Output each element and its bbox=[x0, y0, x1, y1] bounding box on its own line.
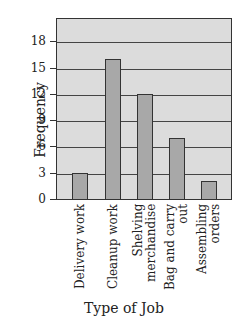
gridline bbox=[57, 69, 231, 70]
x-tick-label: Delivery work bbox=[74, 204, 87, 289]
y-tick-label: 9 bbox=[18, 114, 46, 126]
bar-shelving-merchandise bbox=[137, 94, 153, 199]
gridline bbox=[57, 42, 231, 43]
y-tick bbox=[50, 199, 56, 200]
x-tick-label-line: out bbox=[177, 204, 190, 290]
x-tick-label: Bag and carryout bbox=[164, 204, 190, 290]
y-tick-label: 6 bbox=[18, 140, 46, 152]
y-tick-label: 12 bbox=[18, 88, 46, 100]
bar-assembling-orders bbox=[201, 181, 217, 199]
x-tick-label: Shelvingmerchandise bbox=[132, 204, 158, 282]
x-tick-label-line: merchandise bbox=[145, 204, 158, 282]
x-axis-title: Type of Job bbox=[0, 300, 248, 316]
bar-cleanup-work bbox=[105, 59, 121, 199]
x-tick-label-line: Delivery work bbox=[74, 204, 87, 289]
y-tick bbox=[50, 120, 56, 121]
y-tick bbox=[50, 94, 56, 95]
x-tick-label-line: orders bbox=[209, 204, 222, 274]
y-tick bbox=[50, 68, 56, 69]
bar-bag-and-carry-out bbox=[169, 138, 185, 199]
x-tick-label: Cleanup work bbox=[107, 204, 120, 289]
y-tick-label: 18 bbox=[18, 35, 46, 47]
y-tick-label: 0 bbox=[18, 193, 46, 205]
bar-delivery-work bbox=[72, 173, 88, 199]
x-tick-label: Assemblingorders bbox=[196, 204, 222, 274]
y-tick bbox=[50, 41, 56, 42]
y-tick-label: 3 bbox=[18, 167, 46, 179]
plot-area bbox=[56, 18, 232, 200]
y-tick-label: 15 bbox=[18, 62, 46, 74]
y-tick bbox=[50, 146, 56, 147]
y-tick bbox=[50, 173, 56, 174]
x-tick-label-line: Cleanup work bbox=[107, 204, 120, 289]
